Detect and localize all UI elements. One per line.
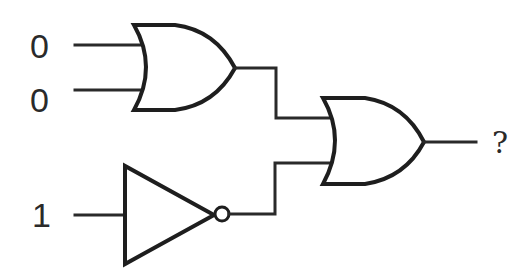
input-label-c: 1 xyxy=(32,196,51,234)
wire-not-to-or2 xyxy=(229,163,336,214)
output-label: ? xyxy=(492,125,508,160)
not-gate-bubble-icon xyxy=(215,207,229,221)
or-gate-1 xyxy=(134,25,235,110)
not-gate xyxy=(125,166,214,264)
wire-or1-to-or2 xyxy=(235,68,336,118)
logic-circuit-diagram: 0 0 1 ? xyxy=(0,0,532,280)
input-label-b: 0 xyxy=(30,81,49,119)
or-gate-2 xyxy=(323,98,424,184)
input-label-a: 0 xyxy=(30,27,49,65)
